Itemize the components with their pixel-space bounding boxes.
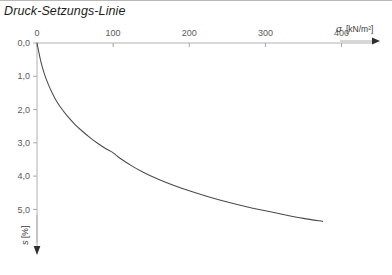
y-arrow-head <box>34 246 41 255</box>
x-arrow-head <box>372 38 380 45</box>
x-tick-label: 100 <box>106 28 121 38</box>
y-axis-arrow <box>34 215 41 255</box>
y-tick-label: 5,0 <box>17 205 30 215</box>
y-axis-label-unit: [%] <box>20 226 30 238</box>
x-tick-label: 200 <box>182 28 197 38</box>
x-tick-label: 0 <box>34 28 39 38</box>
chart-plot-area: 0100200300400 0,01,02,03,04,05,0 σ [kN/m… <box>0 0 392 275</box>
pressure-settlement-curve <box>37 43 323 221</box>
chart-container: Druck-Setzungs-Linie 0100200300400 0,01,… <box>0 0 392 275</box>
y-axis-label-symbol: s <box>19 240 30 245</box>
y-tick-label: 4,0 <box>17 171 30 181</box>
y-axis-label-group: s [%] <box>19 226 30 245</box>
x-axis-label-unit: [kN/m²] <box>346 24 373 34</box>
y-tick-label: 3,0 <box>17 138 30 148</box>
x-tick-label: 300 <box>258 28 273 38</box>
y-axis-ticks: 0,01,02,03,04,05,0 <box>17 38 37 214</box>
x-axis-ticks: 0100200300400 <box>34 28 349 47</box>
y-tick-label: 1,0 <box>17 71 30 81</box>
y-tick-label: 0,0 <box>17 38 30 48</box>
y-tick-label: 2,0 <box>17 105 30 115</box>
